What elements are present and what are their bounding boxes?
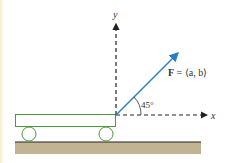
wheel-left: [22, 127, 36, 141]
x-axis-label: x: [210, 110, 216, 121]
cart: [16, 115, 116, 142]
y-axis-label: y: [112, 9, 118, 20]
wheel-right: [99, 127, 113, 141]
force-label: F = ⟨a, b⟩: [168, 67, 207, 78]
ground: [15, 142, 201, 154]
angle-arc: [134, 97, 141, 115]
angle-label: 45°: [141, 100, 154, 110]
force-diagram: y x F = ⟨a, b⟩ 45°: [0, 0, 227, 163]
